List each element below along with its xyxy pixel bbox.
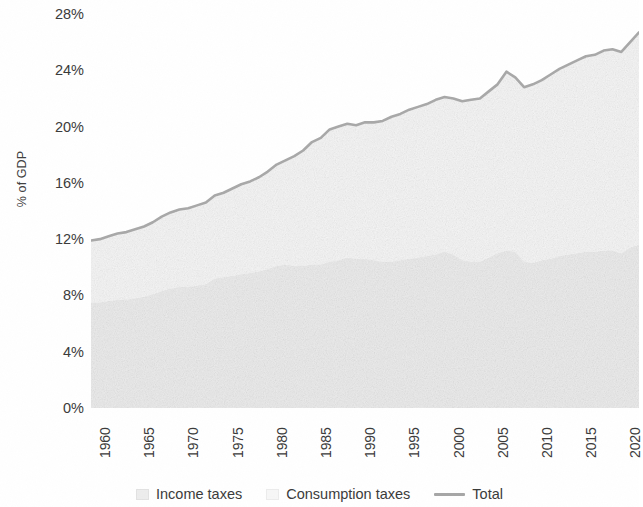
legend-item-label: Total — [472, 487, 503, 502]
x-axis-tick-label: 1980 — [275, 427, 289, 458]
x-axis-tick-labels: 1960196519701975198019851990199520002005… — [0, 410, 639, 472]
legend-swatch-line-icon — [434, 493, 465, 496]
legend-swatch-area-icon — [136, 489, 149, 500]
legend-item-label: Income taxes — [156, 487, 242, 502]
y-axis-tick-label: 12% — [0, 232, 84, 247]
x-axis-tick-label: 1985 — [319, 427, 333, 458]
legend-item[interactable]: Consumption taxes — [266, 487, 410, 502]
legend-item[interactable]: Total — [434, 487, 503, 502]
chart-legend: Income taxesConsumption taxesTotal — [0, 481, 639, 507]
plot-area — [91, 14, 639, 408]
x-axis-tick-label: 2020 — [628, 427, 642, 458]
x-axis-tick-label: 2000 — [452, 427, 466, 458]
x-axis-tick-label: 1995 — [407, 427, 421, 458]
y-axis-tick-label: 8% — [0, 288, 84, 303]
y-axis-tick-label: 28% — [0, 7, 84, 22]
x-axis-tick-label: 1970 — [186, 427, 200, 458]
area-chart-svg — [91, 14, 639, 408]
y-axis-tick-label: 24% — [0, 63, 84, 78]
y-axis-tick-labels: 0%4%8%12%16%20%24%28% — [0, 0, 84, 420]
x-axis-tick-label: 1960 — [98, 427, 112, 458]
legend-swatch-area-icon — [266, 489, 279, 500]
legend-item-label: Consumption taxes — [286, 487, 410, 502]
x-axis-tick-label: 2010 — [540, 427, 554, 458]
x-axis-tick-label: 2005 — [496, 427, 510, 458]
x-axis-tick-label: 1990 — [363, 427, 377, 458]
x-axis-tick-label: 1965 — [142, 427, 156, 458]
y-axis-tick-label: 20% — [0, 119, 84, 134]
legend-item[interactable]: Income taxes — [136, 487, 242, 502]
y-axis-tick-label: 16% — [0, 176, 84, 191]
x-axis-tick-label: 1975 — [231, 427, 245, 458]
y-axis-tick-label: 4% — [0, 344, 84, 359]
x-axis-tick-label: 2015 — [584, 427, 598, 458]
